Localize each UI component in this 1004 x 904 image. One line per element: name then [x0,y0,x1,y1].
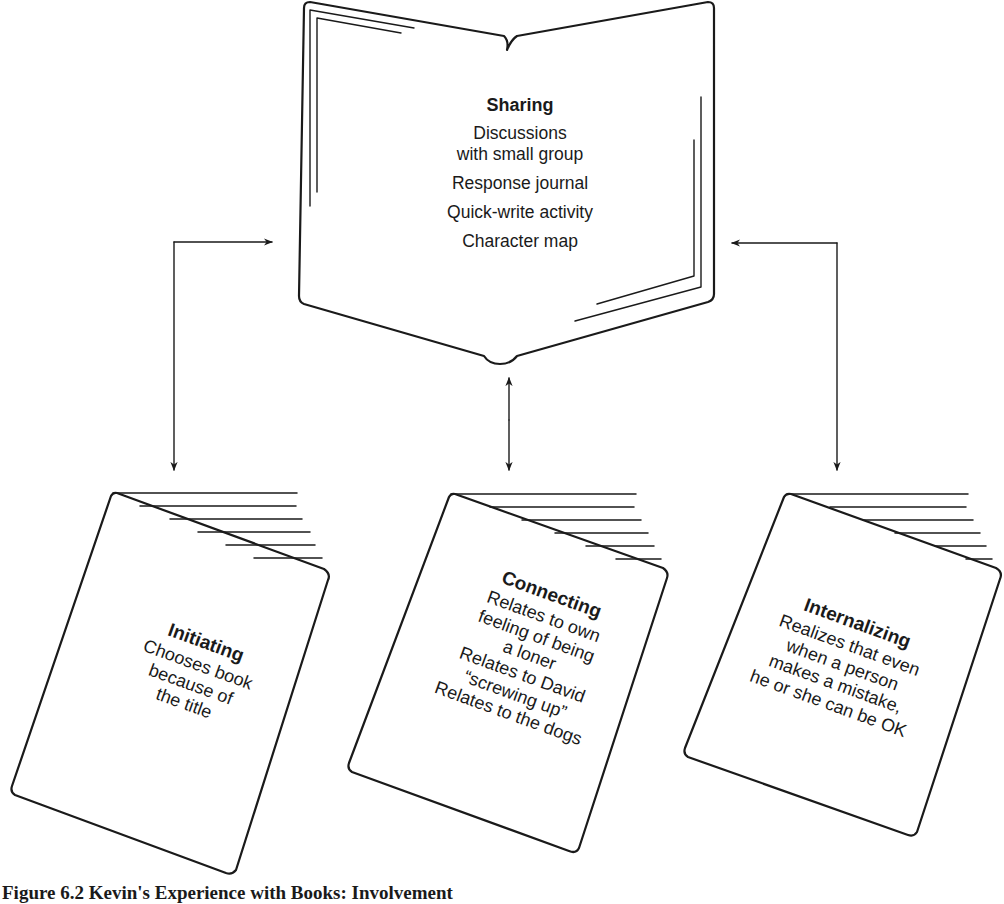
connector-sharing-internalizing [732,243,837,470]
sharing-item: Quick-write activity [400,202,640,223]
sharing-content: Sharing Discussions with small group Res… [400,95,640,260]
connector-sharing-initiating [174,242,272,470]
sharing-item: Character map [400,231,640,252]
sharing-item: Response journal [400,173,640,194]
figure-caption: Figure 6.2 Kevin's Experience with Books… [2,882,453,904]
sharing-item: Discussions [400,123,640,144]
sharing-title: Sharing [400,95,640,117]
sharing-item: with small group [400,144,640,165]
